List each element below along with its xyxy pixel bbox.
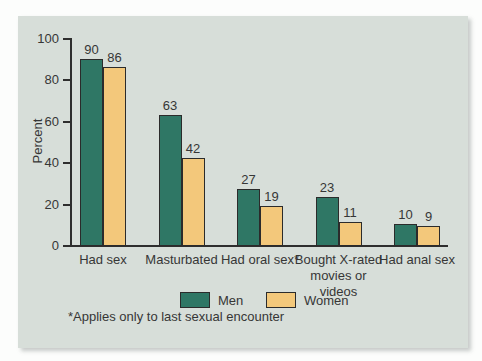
bar-women [417, 226, 440, 246]
y-tick-label: 40 [25, 155, 59, 171]
y-tick [63, 79, 70, 81]
bar-women [260, 206, 283, 246]
bar-value-label: 42 [178, 141, 208, 156]
legend-item-men: Men [180, 292, 243, 308]
bar-value-label: 86 [100, 50, 130, 65]
y-tick [63, 245, 70, 247]
bar-men [159, 115, 182, 246]
y-tick [63, 204, 70, 206]
y-tick-label: 0 [25, 238, 59, 254]
legend-swatch-men [180, 292, 210, 308]
bar-value-label: 11 [335, 205, 365, 220]
bar-men [394, 224, 417, 246]
bar-women [182, 158, 205, 246]
y-axis-line [70, 38, 72, 247]
bar-value-label: 63 [155, 98, 185, 113]
legend-item-women: Women [266, 292, 349, 308]
y-tick-label: 80 [25, 72, 59, 88]
legend-label-women: Women [304, 293, 349, 308]
bar-women [339, 222, 362, 246]
legend-label-men: Men [218, 293, 243, 308]
bar-women [103, 67, 126, 246]
y-tick-label: 100 [25, 31, 59, 47]
y-tick [63, 121, 70, 123]
category-label: Had anal sex [371, 252, 463, 268]
footnote: *Applies only to last sexual encounter [68, 309, 284, 324]
bar-chart: Percent *Applies only to last sexual enc… [0, 0, 482, 361]
bar-men [80, 59, 103, 246]
scanned-figure-page: Percent *Applies only to last sexual enc… [0, 0, 482, 361]
legend-swatch-women [266, 292, 296, 308]
y-tick-label: 20 [25, 197, 59, 213]
y-tick-label: 60 [25, 114, 59, 130]
bar-value-label: 27 [234, 172, 264, 187]
bar-value-label: 23 [312, 180, 342, 195]
bar-value-label: 9 [414, 209, 444, 224]
y-tick [63, 38, 70, 40]
y-tick [63, 162, 70, 164]
bar-value-label: 19 [257, 189, 287, 204]
